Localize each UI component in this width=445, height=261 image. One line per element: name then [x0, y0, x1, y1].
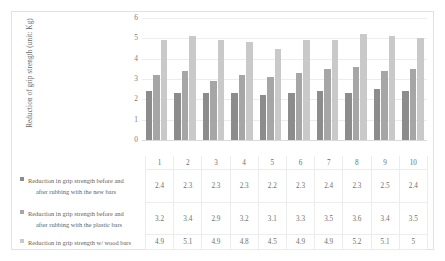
y-axis-tick-label: 0 [122, 136, 138, 143]
y-axis-tick-label: 4 [122, 55, 138, 62]
bar [381, 71, 388, 140]
table-column-header: 9 [371, 156, 399, 170]
table-row: Reduction in grip strength before andaft… [12, 170, 445, 203]
table-cell-value: 2.4 [399, 170, 427, 203]
bar [324, 69, 331, 140]
bar [317, 91, 324, 140]
table-spacer-cell [427, 235, 445, 250]
table-column-header: 1 [146, 156, 174, 170]
legend-label: Reduction in grip strength w/ wood bars [28, 238, 131, 247]
bar [161, 40, 168, 140]
table-row: Reduction in grip strength before andaft… [12, 202, 445, 235]
table-cell-value: 4.9 [202, 235, 230, 250]
legend-entry-3[interactable]: Reduction in grip strength w/ wood bars [12, 235, 146, 250]
table-column-header: 10 [399, 156, 427, 170]
bar [218, 40, 225, 140]
legend-label-line2: after rubbing with the plastic bars [36, 220, 124, 229]
bar [174, 93, 181, 140]
legend-entry-2[interactable]: Reduction in grip strength before andaft… [12, 202, 146, 235]
table-cell-value: 4.9 [286, 235, 314, 250]
bar [210, 81, 217, 140]
table-cell-value: 4.9 [315, 235, 343, 250]
bar [231, 93, 238, 140]
y-axis-tick-label: 3 [122, 75, 138, 82]
legend-label: Reduction in grip strength before andaft… [28, 176, 124, 196]
table-spacer-cell [427, 156, 445, 170]
bar [267, 77, 274, 140]
bar [260, 95, 267, 140]
bar-group [370, 18, 399, 140]
table-cell-value: 2.2 [258, 170, 286, 203]
table-cell-value: 3.4 [174, 202, 202, 235]
bar-group [313, 18, 342, 140]
bar-group [228, 18, 257, 140]
table-column-header: 6 [286, 156, 314, 170]
bar [182, 71, 189, 140]
bar-series-group [142, 18, 427, 140]
plot-block: Reduction of grip strength (unit: Kg) 65… [12, 12, 435, 156]
table-corner-cell [12, 156, 146, 170]
table-column-header: 2 [174, 156, 202, 170]
bar [410, 69, 417, 140]
table-column-header: 3 [202, 156, 230, 170]
table-cell-value: 5.1 [174, 235, 202, 250]
table-column-header: 8 [343, 156, 371, 170]
y-axis-tick-label: 6 [122, 14, 138, 21]
y-axis-tick-label: 5 [122, 35, 138, 42]
bar [303, 40, 310, 140]
table-column-header: 4 [230, 156, 258, 170]
bar [203, 93, 210, 140]
table-cell-value: 3.5 [315, 202, 343, 235]
table-cell-value: 2.3 [202, 170, 230, 203]
table-row: Reduction in grip strength w/ wood bars4… [12, 235, 445, 250]
bar [332, 40, 339, 140]
table-cell-value: 2.9 [202, 202, 230, 235]
table-cell-value: 3.4 [371, 202, 399, 235]
legend-entry-1[interactable]: Reduction in grip strength before andaft… [12, 170, 146, 203]
table-cell-value: 5.2 [343, 235, 371, 250]
table-cell-value: 5.1 [371, 235, 399, 250]
table-cell-value: 3.1 [258, 202, 286, 235]
table-cell-value: 4.9 [146, 235, 174, 250]
table-cell-value: 3.6 [343, 202, 371, 235]
table-header-row: 12345678910 [12, 156, 445, 170]
bar [296, 73, 303, 140]
bar [153, 75, 160, 140]
bar [189, 36, 196, 140]
bar [239, 75, 246, 140]
legend-swatch-icon [20, 177, 24, 181]
bar-group [142, 18, 171, 140]
bar-group [399, 18, 428, 140]
legend-label-line2: after rubbing with the new bars [36, 187, 124, 196]
table-cell-value: 4.8 [230, 235, 258, 250]
bar [288, 93, 295, 140]
bar-group [342, 18, 371, 140]
legend-swatch-icon [20, 210, 24, 214]
bar [360, 34, 367, 140]
table-cell-value: 3.3 [286, 202, 314, 235]
bar-group [256, 18, 285, 140]
table-spacer-cell [427, 170, 445, 203]
gridline [142, 140, 427, 141]
table-cell-value: 4.5 [258, 235, 286, 250]
bar [417, 38, 424, 140]
table-cell-value: 2.3 [286, 170, 314, 203]
bar-group [285, 18, 314, 140]
table-spacer-cell [427, 202, 445, 235]
chart-data-table: 12345678910Reduction in grip strength be… [12, 156, 435, 250]
y-axis-tick-label: 1 [122, 116, 138, 123]
bar [389, 36, 396, 140]
table-column-header: 7 [315, 156, 343, 170]
y-axis-tick-label: 2 [122, 96, 138, 103]
bar-group [171, 18, 200, 140]
bar [146, 91, 153, 140]
bar [345, 93, 352, 140]
bar [402, 91, 409, 140]
table-cell-value: 3.5 [399, 202, 427, 235]
y-axis-tick-labels: 6543210 [122, 18, 138, 140]
y-axis-title: Reduction of grip strength (unit: Kg) [26, 8, 34, 138]
bar [374, 89, 381, 140]
legend-label: Reduction in grip strength before andaft… [28, 209, 124, 229]
table-cell-value: 2.3 [230, 170, 258, 203]
chart-container: Reduction of grip strength (unit: Kg) 65… [11, 11, 434, 250]
